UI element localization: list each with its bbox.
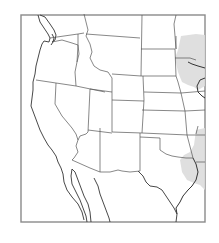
map-frame [21, 15, 205, 222]
map [0, 0, 219, 243]
